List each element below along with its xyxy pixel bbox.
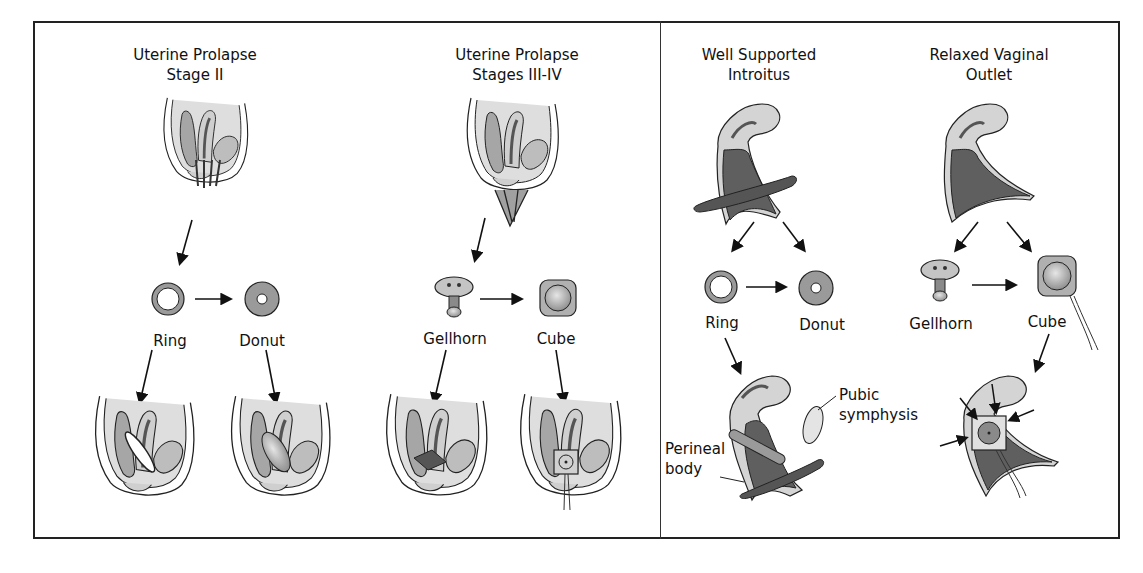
ring-supported-illustration <box>720 376 836 500</box>
cube-pessary-icon-right <box>1038 256 1098 350</box>
cube-pessary-icon-left <box>540 280 576 316</box>
donut-in-place-illustration <box>232 396 330 495</box>
gellhorn-in-place-illustration <box>387 394 487 495</box>
cube-relaxed-outlet-illustration <box>940 376 1058 498</box>
flow-arrows <box>140 218 1049 402</box>
cube-in-place-illustration <box>521 394 621 510</box>
donut-pessary-icon-right <box>799 271 833 305</box>
prolapse-stage2-illustration <box>164 98 248 188</box>
ring-in-place-illustration <box>96 396 194 495</box>
gellhorn-pessary-icon-right <box>921 260 959 301</box>
prolapse-stage34-illustration <box>467 98 558 226</box>
ring-pessary-icon-left <box>152 283 184 315</box>
ring-pessary-icon-right <box>705 271 737 303</box>
well-supported-introitus-illustration <box>694 104 797 224</box>
gellhorn-pessary-icon-left <box>435 277 473 317</box>
illustration-layer <box>0 0 1143 573</box>
donut-pessary-icon-left <box>245 282 279 316</box>
relaxed-vaginal-outlet-illustration <box>944 104 1034 222</box>
